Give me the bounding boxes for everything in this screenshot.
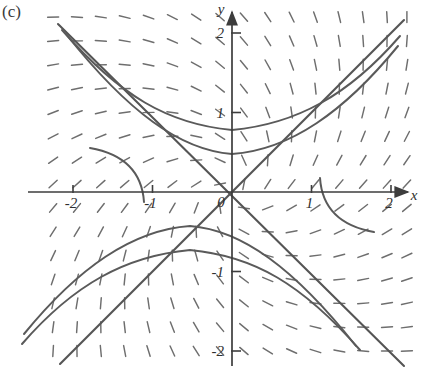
origin-label: 0 <box>217 194 225 210</box>
field-segment <box>215 133 224 139</box>
field-segment <box>144 181 152 188</box>
field-segment <box>335 205 344 212</box>
field-segment <box>384 156 390 165</box>
field-segment <box>267 131 269 142</box>
x-tick-label: 2 <box>385 195 393 211</box>
field-segment <box>194 274 198 284</box>
trajectory-lower-right-outer <box>22 250 360 350</box>
trajectory-curves <box>22 20 404 366</box>
field-segment <box>193 346 199 355</box>
field-segment <box>313 155 317 165</box>
field-segment <box>359 205 368 212</box>
field-segment <box>143 15 153 19</box>
field-segment <box>287 325 297 329</box>
field-segment <box>239 229 249 234</box>
field-segment <box>119 64 130 65</box>
field-segment <box>387 12 388 23</box>
field-segment <box>72 157 81 163</box>
field-segment <box>123 250 126 261</box>
field-segment <box>48 87 59 90</box>
field-segment <box>382 278 393 281</box>
field-segment <box>77 322 78 333</box>
field-segment <box>312 180 319 188</box>
field-segment <box>265 13 271 22</box>
field-segment <box>362 107 365 118</box>
field-segment <box>72 134 82 139</box>
field-segment <box>334 229 344 234</box>
field-segment <box>122 227 127 237</box>
field-segment <box>403 204 411 211</box>
field-segment <box>263 301 273 306</box>
field-segment <box>286 302 297 305</box>
field-segment <box>124 274 125 285</box>
field-segment <box>167 87 178 90</box>
field-segment <box>171 274 173 285</box>
field-segment <box>385 107 388 117</box>
field-segment <box>170 346 175 356</box>
field-segment <box>194 203 198 213</box>
field-segment <box>289 12 294 22</box>
field-segment <box>48 40 59 41</box>
field-segment <box>76 298 78 309</box>
field-segment <box>386 83 388 94</box>
field-segment <box>119 40 130 42</box>
field-segment <box>48 64 59 66</box>
x-axis-label: x <box>410 187 418 203</box>
field-segment <box>216 61 224 68</box>
field-segment <box>167 15 177 20</box>
field-segment <box>119 16 130 19</box>
field-segment <box>191 86 201 91</box>
field-segment <box>217 323 224 331</box>
field-segment <box>266 107 270 117</box>
field-segment <box>100 298 101 309</box>
field-segment <box>95 111 106 114</box>
field-segment <box>314 12 318 22</box>
field-segment <box>240 13 247 21</box>
field-segment <box>406 83 409 94</box>
field-segment <box>192 38 201 44</box>
x-tick-label: -2 <box>65 195 78 211</box>
field-segment <box>286 231 297 233</box>
y-tick-label: 2 <box>217 25 225 41</box>
field-segment <box>401 351 412 352</box>
field-segment <box>119 135 129 138</box>
field-segment <box>194 298 199 308</box>
field-segment <box>310 326 321 329</box>
field-segment <box>216 85 225 92</box>
field-segment <box>240 276 249 283</box>
field-segment <box>338 131 341 141</box>
trajectory-lower-left-hyperbola <box>90 148 144 202</box>
field-segment <box>337 155 342 165</box>
y-tick-label: -2 <box>212 343 225 359</box>
field-segment <box>73 180 81 187</box>
field-segment <box>404 156 410 165</box>
field-segment <box>50 204 57 212</box>
field-segment <box>191 111 201 115</box>
field-segment <box>147 346 150 357</box>
field-segment <box>334 350 345 352</box>
field-segment <box>193 322 199 332</box>
field-segment <box>167 112 178 114</box>
field-segment <box>288 180 295 189</box>
field-segment <box>385 131 390 141</box>
field-segment <box>143 135 154 137</box>
field-segment <box>148 298 150 309</box>
field-segment <box>124 322 125 333</box>
field-segment <box>215 158 225 163</box>
field-segment <box>51 274 55 284</box>
field-segment <box>240 300 249 307</box>
field-segment <box>404 131 409 141</box>
field-segment <box>240 37 247 45</box>
field-segment <box>240 324 248 331</box>
field-segment <box>143 88 154 89</box>
field-segment <box>168 181 177 188</box>
field-segment <box>358 303 369 304</box>
field-segment <box>287 349 297 354</box>
field-segment <box>338 36 340 47</box>
field-segment <box>119 112 130 114</box>
field-segment <box>361 131 365 141</box>
field-segment <box>401 326 412 327</box>
field-segment <box>167 39 177 43</box>
field-segment <box>263 324 273 330</box>
field-segment <box>143 64 154 66</box>
